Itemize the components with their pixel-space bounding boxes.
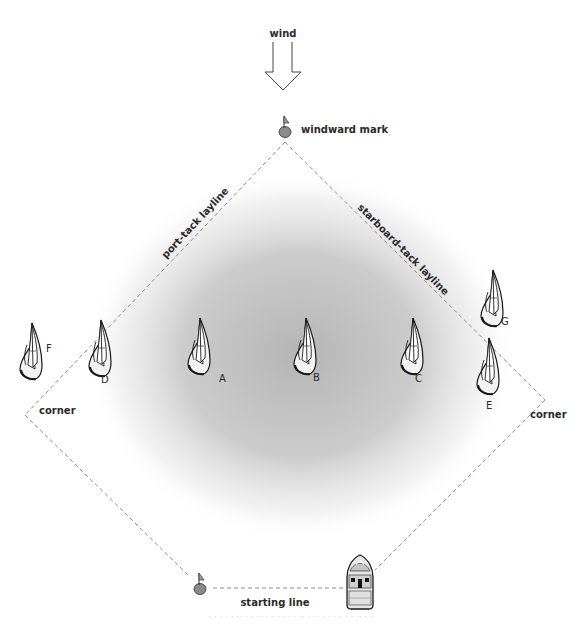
faded-caption: · · · · · ·· · · ·· · · · · · · ·· · ·· … [0,613,582,622]
boat-label: D [101,374,109,385]
sailboat-icon [20,323,42,379]
boat-label: B [313,372,320,383]
boat-label: G [501,316,509,327]
race-course-diagram: wind windward mark port-tack layline sta… [0,0,582,628]
boat-label: A [219,373,226,384]
boat-label: E [486,400,492,411]
left-corner-label: corner [39,405,76,416]
wind-arrow-icon [265,42,301,90]
boat-label: F [46,343,52,354]
pin-mark-icon [194,573,206,595]
boat-F: F [20,323,52,379]
starting-line-label: starting line [240,597,309,608]
wind-label: wind [270,28,297,39]
boat-label: C [415,373,422,384]
committee-boat-icon [347,555,373,609]
right-corner-label: corner [530,409,567,420]
windward-mark-label: windward mark [301,124,389,135]
windward-mark-icon [279,116,291,138]
